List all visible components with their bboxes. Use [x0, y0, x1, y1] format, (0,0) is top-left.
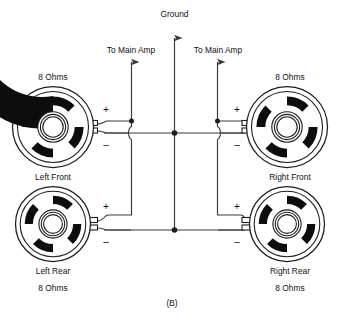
figure-caption: (B) — [166, 298, 177, 308]
left-rear-plus-lead — [97, 215, 108, 221]
speaker-right-rear[interactable]: Right Rear 8 Ohms + – — [234, 187, 324, 294]
junction-left-front-plus — [129, 119, 134, 124]
cone-blades-left-front — [0, 0, 53, 128]
left-amp-label: To Main Amp — [107, 45, 156, 55]
left-front-plus-sign: + — [103, 104, 109, 115]
right-front-plus-sign: + — [234, 104, 240, 115]
speaker-right-front[interactable]: 8 Ohms Right Front + – — [234, 72, 327, 182]
right-front-minus-sign: – — [234, 139, 240, 150]
right-rear-impedance-label: 8 Ohms — [275, 283, 304, 293]
left-amp-feed-line — [108, 62, 132, 215]
left-front-minus-lead — [97, 131, 128, 133]
right-amp-label: To Main Amp — [194, 45, 243, 55]
left-front-plus-lead — [97, 121, 132, 124]
left-front-name-label: Left Front — [35, 172, 72, 182]
ground-label: Ground — [161, 9, 189, 19]
right-front-impedance-label: 8 Ohms — [275, 72, 304, 82]
right-rear-plus-sign: + — [234, 201, 240, 212]
right-rear-name-label: Right Rear — [270, 266, 310, 276]
junction-right-front-plus — [215, 119, 220, 124]
junction-ground-rear-bus — [172, 227, 178, 233]
wiring-net-group — [97, 38, 252, 233]
left-rear-plus-sign: + — [103, 201, 109, 212]
right-rear-minus-sign: – — [234, 236, 240, 247]
junction-ground-front-bus — [172, 130, 178, 136]
diagram-canvas: 8 Ohms Left Front + – 8 Ohms Right Fr — [0, 0, 339, 322]
speaker-left-front[interactable]: 8 Ohms Left Front + – — [0, 0, 109, 182]
left-front-minus-sign: – — [103, 139, 109, 150]
speaker-left-rear[interactable]: Left Rear 8 Ohms + – — [16, 187, 110, 294]
left-rear-name-label: Left Rear — [36, 266, 71, 276]
left-rear-minus-sign: – — [103, 236, 109, 247]
right-front-name-label: Right Front — [269, 172, 311, 182]
left-rear-minus-lead — [97, 228, 131, 230]
speaker-wiring-diagram: 8 Ohms Left Front + – 8 Ohms Right Fr — [0, 0, 339, 322]
left-rear-impedance-label: 8 Ohms — [38, 283, 67, 293]
left-front-impedance-label: 8 Ohms — [38, 72, 67, 82]
